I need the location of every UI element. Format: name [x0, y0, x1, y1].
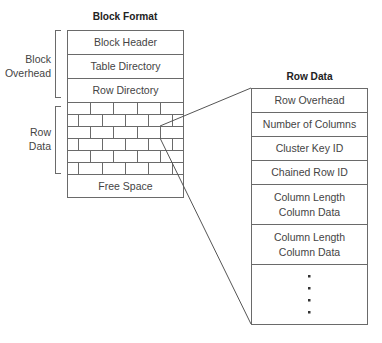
connector-top: [160, 88, 251, 126]
diagram-lines: [0, 0, 382, 343]
ellipsis-dots-icon: [308, 275, 311, 314]
row-data-bracket: [56, 107, 61, 174]
connector-bottom: [160, 138, 251, 324]
brick-joints-a: [91, 102, 161, 162]
overhead-bracket: [56, 31, 61, 98]
brick-joints-b: [79, 114, 173, 174]
